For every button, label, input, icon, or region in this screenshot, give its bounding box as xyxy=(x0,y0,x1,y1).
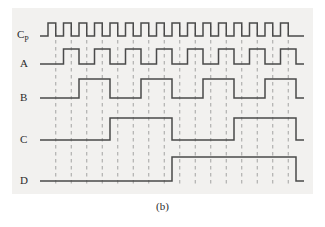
waveform-traces xyxy=(40,23,304,181)
waveform-panel: CP A B C D xyxy=(12,8,313,194)
timing-diagram-figure: CP A B C D (b) xyxy=(0,0,325,227)
row-label-a: A xyxy=(20,58,28,69)
waveform-trace-c xyxy=(40,118,304,140)
row-label-b: B xyxy=(20,92,27,103)
waveform-trace-b xyxy=(40,79,304,98)
row-label-cp-subscript: P xyxy=(24,35,28,44)
row-label-cp: CP xyxy=(17,29,29,43)
waveform-trace-cp xyxy=(40,23,304,36)
waveform-canvas xyxy=(12,8,313,194)
waveform-trace-a xyxy=(40,49,304,64)
waveform-trace-d xyxy=(40,157,304,181)
row-label-d: D xyxy=(20,175,28,186)
waveform-panel-inner: CP A B C D xyxy=(12,8,313,194)
row-label-c: C xyxy=(20,134,27,145)
figure-caption: (b) xyxy=(0,200,325,212)
